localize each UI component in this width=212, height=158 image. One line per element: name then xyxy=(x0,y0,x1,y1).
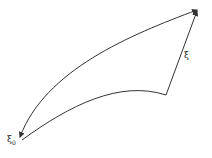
xi0-label: ξ0 xyxy=(7,135,16,146)
diagram-canvas: ξ0 ξ xyxy=(0,0,212,158)
upper-curve-end-arrow xyxy=(20,10,197,137)
xi-vector xyxy=(166,11,197,95)
upper-curve xyxy=(20,10,197,137)
xi-label: ξ xyxy=(184,51,189,60)
diagram-svg xyxy=(0,0,212,158)
